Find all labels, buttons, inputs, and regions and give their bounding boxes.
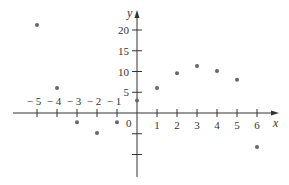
data-point bbox=[75, 120, 79, 124]
data-point bbox=[195, 64, 199, 68]
data-point bbox=[175, 71, 179, 75]
data-point bbox=[235, 78, 239, 82]
x-tick-label: 4 bbox=[214, 119, 220, 131]
x-tick-label: − 2 bbox=[87, 95, 101, 107]
x-tick-label: − 1 bbox=[107, 95, 121, 107]
y-axis-label: y bbox=[126, 6, 133, 20]
y-tick-label: 10 bbox=[118, 66, 130, 78]
data-point bbox=[135, 99, 139, 103]
y-tick-label: 20 bbox=[118, 24, 130, 36]
y-axis-arrow-icon bbox=[135, 10, 140, 18]
data-point bbox=[95, 131, 99, 135]
data-point bbox=[255, 145, 259, 149]
x-tick-label: 5 bbox=[234, 119, 240, 131]
x-tick-label: − 5 bbox=[27, 95, 42, 107]
data-point bbox=[155, 86, 159, 90]
x-tick-label: − 3 bbox=[67, 95, 82, 107]
x-tick-label: 6 bbox=[254, 119, 260, 131]
x-tick-label: 2 bbox=[174, 119, 180, 131]
y-tick-label: 15 bbox=[118, 45, 130, 57]
y-tick-label: 5 bbox=[124, 86, 130, 98]
scatter-chart: − 5− 4− 3− 2− 11234562015105 x y 0 bbox=[0, 0, 289, 185]
x-axis-label: x bbox=[272, 116, 279, 130]
x-axis-arrow-icon bbox=[271, 111, 279, 116]
data-point bbox=[35, 23, 39, 27]
axes bbox=[13, 10, 279, 177]
data-point bbox=[115, 120, 119, 124]
x-tick-label: 3 bbox=[194, 119, 200, 131]
data-point bbox=[215, 69, 219, 73]
x-tick-label: − 4 bbox=[47, 95, 62, 107]
data-points bbox=[35, 23, 259, 149]
origin-label: 0 bbox=[126, 117, 132, 129]
tick-labels: − 5− 4− 3− 2− 11234562015105 bbox=[27, 24, 260, 131]
data-point bbox=[55, 86, 59, 90]
x-tick-label: 1 bbox=[154, 119, 160, 131]
tick-marks bbox=[37, 30, 257, 155]
